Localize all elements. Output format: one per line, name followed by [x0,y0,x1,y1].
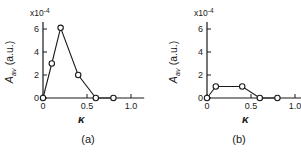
y-tick-label: 6 [198,24,203,34]
chart-panel-a-caption: (a) [58,133,118,145]
y-tick-label: 0 [34,93,39,103]
x-tick-label: 0 [204,101,209,111]
chart-panel-a: 00.51.00246x10-4Aav (a.u.)κ [0,0,160,132]
chart-panel-b-canvas: 00.51.00246x10-4Aav (a.u.)κ [164,0,301,132]
y-tick-label: 0 [198,93,203,103]
x-tick-label: 0 [40,101,45,111]
x-tick-label: 1.0 [289,101,301,111]
x-tick-label: 0.5 [81,101,94,111]
data-point-marker [58,25,63,30]
x-tick-label: 0.5 [245,101,258,111]
data-point-marker [49,61,54,66]
x-tick-label: 1.0 [125,101,138,111]
y-axis-title: Aav (a.u.) [3,41,18,84]
data-point-marker [111,95,116,100]
x-axis-title: κ [242,113,249,125]
data-point-marker [93,95,98,100]
chart-panel-b: 00.51.00246x10-4Aav (a.u.)κ [164,0,301,132]
two-panel-line-figure: 00.51.00246x10-4Aav (a.u.)κ 00.51.00246x… [0,0,301,158]
x-axis-title: κ [78,113,85,125]
data-point-marker [76,72,81,77]
data-point-marker [275,95,280,100]
chart-panel-b-caption: (b) [209,133,269,145]
chart-panel-a-canvas: 00.51.00246x10-4Aav (a.u.)κ [0,0,160,132]
y-tick-label: 2 [34,70,39,80]
y-tick-label: 2 [198,70,203,80]
y-axis-scale-label: x10-4 [30,7,50,18]
data-point-marker [257,95,262,100]
y-axis-scale-label: x10-4 [194,7,214,18]
data-point-marker [204,95,209,100]
data-point-marker [213,84,218,89]
y-axis-title: Aav (a.u.) [167,41,182,84]
y-tick-label: 4 [34,47,39,57]
y-tick-label: 6 [34,24,39,34]
y-tick-label: 4 [198,47,203,57]
data-point-marker [240,84,245,89]
data-point-marker [40,95,45,100]
